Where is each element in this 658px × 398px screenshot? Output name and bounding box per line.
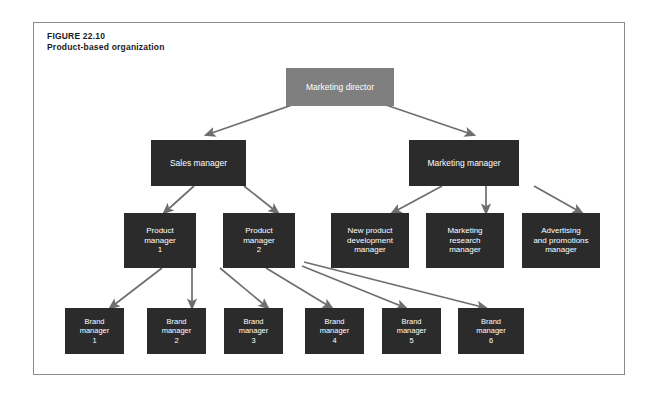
node-brand-manager-1-label: Brand manager 1 (80, 317, 110, 344)
node-marketing-director-label: Marketing director (306, 82, 374, 92)
node-brand-manager-6-label: Brand manager 6 (476, 317, 506, 344)
node-product-manager-2-label: Product manager 2 (243, 226, 275, 255)
edge-marketing-to-advertising (534, 186, 582, 213)
figure-page: FIGURE 22.10 Product-based organization (0, 0, 658, 398)
edge-director-to-marketing (386, 105, 474, 135)
node-marketing-manager-label: Marketing manager (427, 158, 500, 168)
node-brand-manager-4-label: Brand manager 4 (320, 317, 350, 344)
figure-frame: FIGURE 22.10 Product-based organization (33, 22, 625, 375)
node-new-product-development-manager[interactable]: New product development manager (331, 213, 409, 268)
node-brand-manager-6[interactable]: Brand manager 6 (458, 308, 524, 354)
node-sales-manager-label: Sales manager (170, 158, 227, 168)
node-product-manager-1[interactable]: Product manager 1 (124, 213, 196, 268)
edge-pm1-to-brand1 (110, 268, 162, 308)
edge-sales-to-pm2 (244, 186, 278, 213)
edge-director-to-sales (206, 105, 292, 135)
node-marketing-research-manager-label: Marketing research manager (447, 226, 482, 255)
edge-marketing-to-newproduct (392, 186, 442, 213)
node-brand-manager-4[interactable]: Brand manager 4 (305, 308, 364, 354)
node-brand-manager-2[interactable]: Brand manager 2 (147, 308, 206, 354)
node-new-product-development-manager-label: New product development manager (347, 226, 393, 255)
node-brand-manager-3-label: Brand manager 3 (239, 317, 269, 344)
node-brand-manager-2-label: Brand manager 2 (162, 317, 192, 344)
node-marketing-director[interactable]: Marketing director (286, 68, 394, 106)
node-brand-manager-1[interactable]: Brand manager 1 (65, 308, 124, 354)
node-product-manager-2[interactable]: Product manager 2 (223, 213, 295, 268)
node-advertising-and-promotions-manager[interactable]: Advertising and promotions manager (522, 213, 600, 268)
edge-pm1-to-brand3 (220, 268, 268, 308)
edge-pm2-to-brand6 (304, 262, 486, 308)
node-marketing-manager[interactable]: Marketing manager (409, 140, 519, 186)
node-brand-manager-5-label: Brand manager 5 (397, 317, 427, 344)
node-brand-manager-3[interactable]: Brand manager 3 (224, 308, 283, 354)
node-marketing-research-manager[interactable]: Marketing research manager (426, 213, 504, 268)
node-product-manager-1-label: Product manager 1 (144, 226, 176, 255)
node-advertising-and-promotions-manager-label: Advertising and promotions manager (533, 226, 588, 255)
edge-pm2-to-brand5 (302, 266, 406, 308)
node-sales-manager[interactable]: Sales manager (151, 140, 246, 186)
edge-sales-to-pm1 (164, 186, 194, 213)
node-brand-manager-5[interactable]: Brand manager 5 (382, 308, 441, 354)
